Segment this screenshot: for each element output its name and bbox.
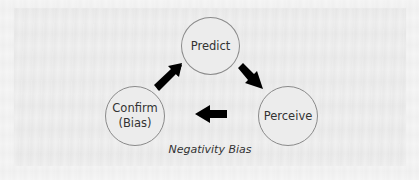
node-label: Predict: [191, 39, 231, 54]
arrow-left-icon: [195, 105, 227, 123]
node-perceive: Perceive: [258, 86, 318, 146]
node-label: Confirm (Bias): [112, 101, 157, 131]
node-label: Perceive: [264, 109, 313, 124]
diagram-caption: Negativity Bias: [160, 143, 260, 156]
diagram-canvas: Predict Perceive Confirm (Bias) Negativi…: [0, 0, 419, 180]
node-confirm: Confirm (Bias): [105, 86, 165, 146]
node-predict: Predict: [181, 17, 240, 75]
arrow-down-right-icon: [238, 63, 263, 89]
arrow-up-right-icon: [154, 63, 182, 91]
